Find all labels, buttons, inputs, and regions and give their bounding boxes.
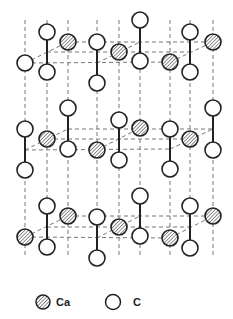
ca-atom bbox=[111, 219, 127, 235]
c-atom bbox=[17, 162, 33, 178]
c-atom bbox=[39, 24, 55, 40]
legend-c-label: C bbox=[133, 296, 141, 308]
ca-atom bbox=[60, 34, 76, 50]
ca-atom bbox=[182, 131, 198, 147]
c-atom bbox=[205, 100, 221, 116]
ca-atom bbox=[60, 208, 76, 224]
ca-atom bbox=[162, 54, 178, 70]
c-atom bbox=[89, 209, 105, 225]
c-atom bbox=[89, 34, 105, 50]
ca-atom bbox=[162, 230, 178, 246]
c-atom bbox=[182, 64, 198, 80]
c-atom bbox=[162, 161, 178, 177]
c-atom bbox=[89, 75, 105, 91]
c-atom bbox=[60, 141, 76, 157]
ca-atom bbox=[205, 208, 221, 224]
c-atom bbox=[132, 53, 148, 69]
cac2-crystal-diagram: Ca C bbox=[0, 0, 233, 319]
c-atom bbox=[205, 142, 221, 158]
c-atom bbox=[132, 188, 148, 204]
c-atom bbox=[182, 198, 198, 214]
legend-ca-icon bbox=[36, 295, 50, 309]
c-atom bbox=[39, 198, 55, 214]
c-atom bbox=[39, 239, 55, 255]
ca-atom bbox=[132, 120, 148, 136]
ca-atom bbox=[205, 34, 221, 50]
c-atom bbox=[162, 121, 178, 137]
legend: Ca C bbox=[36, 295, 141, 310]
c-atom bbox=[17, 55, 33, 71]
c-atom bbox=[182, 240, 198, 256]
ca-atom bbox=[111, 44, 127, 60]
c-atom bbox=[182, 24, 198, 40]
c-atom bbox=[132, 12, 148, 28]
ca-atom bbox=[89, 142, 105, 158]
c-atom bbox=[111, 152, 127, 168]
c-atom bbox=[89, 250, 105, 266]
legend-ca-label: Ca bbox=[56, 296, 71, 308]
c-atom bbox=[39, 64, 55, 80]
c-atom bbox=[60, 100, 76, 116]
ca-atom bbox=[17, 229, 33, 245]
c-atom bbox=[132, 228, 148, 244]
c-atom bbox=[17, 121, 33, 137]
c-atom bbox=[111, 112, 127, 128]
ca-atom bbox=[39, 131, 55, 147]
legend-c-icon bbox=[106, 295, 121, 310]
